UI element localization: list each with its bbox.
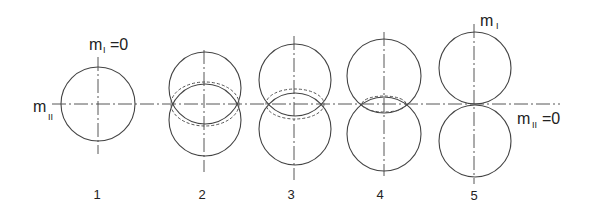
label-m1-zero: m I =0 [89,36,128,55]
stage-3 [259,36,331,180]
svg-text:m: m [480,12,493,29]
svg-text:=0: =0 [542,110,560,127]
stage-number-5: 5 [470,188,477,203]
upper-circle [169,52,241,124]
stage-1 [61,57,135,154]
lower-circle [169,84,241,156]
stage-number-2: 2 [198,187,205,202]
label-m2-zero: m II =0 [517,110,560,130]
stage-number-3: 3 [287,187,294,202]
svg-text:m: m [89,36,102,53]
svg-text:m: m [517,110,530,127]
stage-diagram: m I =0 m II m I m II =0 1 2 3 4 5 [0,0,589,211]
stage-number-1: 1 [93,187,100,202]
label-m1-right: m I [480,12,499,31]
upper-circle [259,44,331,116]
svg-text:=0: =0 [110,36,128,53]
upper-circle [439,32,511,104]
svg-text:m: m [33,98,46,115]
svg-text:II: II [48,112,53,122]
svg-text:I: I [103,45,106,55]
lower-circle [439,105,511,177]
stage-number-4: 4 [376,187,383,202]
stage-2 [169,50,241,172]
svg-text:I: I [496,21,499,31]
label-m2-left: m II [33,98,53,122]
svg-text:II: II [532,120,537,130]
